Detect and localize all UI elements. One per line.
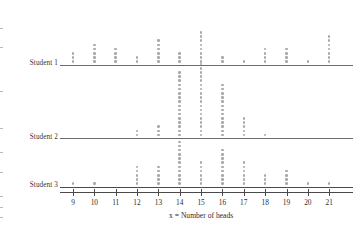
x-axis-tick-label: 12 <box>133 198 140 207</box>
data-dot <box>114 56 117 59</box>
data-dot <box>178 56 181 59</box>
data-dot <box>136 56 139 59</box>
data-dot <box>178 117 181 120</box>
x-axis-tick-label: 16 <box>219 198 226 207</box>
data-dot <box>200 109 203 112</box>
data-dot <box>307 60 310 63</box>
data-dot <box>221 105 224 108</box>
data-dot <box>264 52 267 55</box>
data-dot <box>200 121 203 124</box>
data-dot <box>200 84 203 87</box>
data-dot <box>200 96 203 99</box>
data-dot <box>221 161 224 164</box>
x-axis-tick <box>308 189 309 196</box>
data-dot <box>243 117 246 120</box>
data-dot <box>243 134 246 137</box>
data-dot <box>328 39 331 42</box>
data-dot <box>178 170 181 173</box>
data-dot <box>243 130 246 133</box>
x-axis-tick <box>73 189 74 196</box>
data-dot <box>72 56 75 59</box>
data-dot <box>328 182 331 185</box>
plot-area: Student 1Student 2Student 39101112131415… <box>0 0 359 229</box>
data-dot <box>243 174 246 177</box>
data-dot <box>72 52 75 55</box>
x-axis-line <box>60 192 353 193</box>
row-baseline-student-1 <box>60 65 353 66</box>
data-dot <box>200 170 203 173</box>
data-dot <box>221 96 224 99</box>
data-dot <box>200 71 203 74</box>
x-axis-tick <box>94 189 95 196</box>
data-dot <box>200 130 203 133</box>
data-dot <box>72 60 75 63</box>
data-dot <box>243 182 246 185</box>
data-dot <box>178 166 181 169</box>
data-dot <box>200 100 203 103</box>
x-axis-tick-label: 15 <box>197 198 204 207</box>
data-dot <box>93 44 96 47</box>
data-dot <box>157 182 160 185</box>
data-dot <box>200 44 203 47</box>
data-dot <box>221 92 224 95</box>
data-dot <box>157 44 160 47</box>
row-label-student-1: Student 1 <box>8 59 58 67</box>
data-dot <box>328 48 331 51</box>
data-dot <box>221 174 224 177</box>
data-dot <box>157 39 160 42</box>
data-dot <box>136 178 139 181</box>
data-dot <box>221 125 224 128</box>
x-axis-tick <box>244 189 245 196</box>
x-axis-tick-label: 14 <box>176 198 183 207</box>
data-dot <box>178 174 181 177</box>
data-dot <box>264 182 267 185</box>
data-dot <box>114 60 117 63</box>
data-dot <box>178 153 181 156</box>
data-dot <box>243 60 246 63</box>
data-dot <box>200 56 203 59</box>
data-dot <box>200 79 203 82</box>
data-dot <box>328 60 331 63</box>
data-dot <box>178 52 181 55</box>
x-axis-tick-label: 17 <box>240 198 247 207</box>
data-dot <box>157 48 160 51</box>
data-dot <box>200 125 203 128</box>
x-axis-tick-label: 9 <box>71 198 75 207</box>
data-dot <box>221 117 224 120</box>
data-dot <box>178 161 181 164</box>
data-dot <box>178 121 181 124</box>
x-axis-tick-label: 21 <box>325 198 332 207</box>
x-axis-tick-label: 13 <box>155 198 162 207</box>
x-axis-tick <box>201 189 202 196</box>
data-dot <box>200 105 203 108</box>
data-dot <box>136 60 139 63</box>
data-dot <box>243 121 246 124</box>
data-dot <box>157 56 160 59</box>
data-dot <box>157 130 160 133</box>
data-dot <box>178 71 181 74</box>
data-dot <box>221 134 224 137</box>
data-dot <box>264 60 267 63</box>
data-dot <box>200 31 203 34</box>
data-dot <box>178 109 181 112</box>
data-dot <box>221 170 224 173</box>
data-dot <box>178 105 181 108</box>
data-dot <box>221 109 224 112</box>
data-dot <box>72 182 75 185</box>
data-dot <box>200 92 203 95</box>
row-label-student-3: Student 3 <box>8 181 58 189</box>
x-axis-tick-label: 20 <box>304 198 311 207</box>
data-dot <box>93 48 96 51</box>
data-dot <box>178 100 181 103</box>
data-dot <box>178 92 181 95</box>
data-dot <box>200 113 203 116</box>
data-dot <box>200 35 203 38</box>
data-dot <box>221 121 224 124</box>
x-axis-tick <box>158 189 159 196</box>
x-axis-title: x = Number of heads <box>169 211 233 220</box>
data-dot <box>200 174 203 177</box>
data-dot <box>200 88 203 91</box>
data-dot <box>178 113 181 116</box>
x-axis-tick-label: 18 <box>261 198 268 207</box>
data-dot <box>200 161 203 164</box>
